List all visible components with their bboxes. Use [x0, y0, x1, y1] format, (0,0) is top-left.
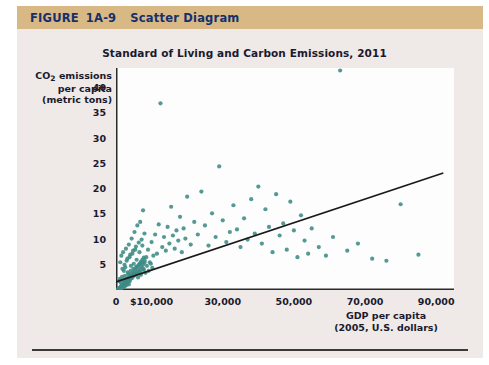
- scatter-point: [164, 249, 168, 253]
- scatter-point: [123, 265, 127, 269]
- scatter-point: [228, 230, 232, 234]
- scatter-point: [399, 202, 403, 206]
- scatter-point: [141, 208, 145, 212]
- scatter-point: [118, 260, 122, 264]
- scatter-point: [235, 227, 239, 231]
- scatter-point: [295, 255, 299, 259]
- scatter-point: [138, 220, 142, 224]
- scatter-point: [189, 242, 193, 246]
- scatter-point: [182, 226, 186, 230]
- scatter-point: [217, 164, 221, 168]
- scatter-point: [210, 211, 214, 215]
- y-axis-title-line1: CO2 emissions: [16, 70, 112, 83]
- scatter-point: [146, 248, 150, 252]
- x-axis-title-line1: GDP per capita: [300, 310, 472, 322]
- scatter-point: [331, 235, 335, 239]
- scatter-point: [183, 236, 187, 240]
- scatter-point: [171, 233, 175, 237]
- scatter-point: [224, 240, 228, 244]
- scatter-point: [142, 231, 146, 235]
- y-axis-tick-label: 20: [80, 183, 106, 194]
- scatter-point: [140, 244, 144, 248]
- scatter-points-group: [116, 68, 420, 290]
- y-axis-tick-label: 25: [80, 158, 106, 169]
- scatter-point: [285, 248, 289, 252]
- scatter-point: [155, 252, 159, 256]
- scatter-point: [130, 252, 134, 256]
- y-axis-tick-label: 35: [80, 107, 106, 118]
- scatter-point: [256, 184, 260, 188]
- scatter-point: [292, 228, 296, 232]
- scatter-point: [135, 258, 139, 262]
- scatter-point: [299, 213, 303, 217]
- scatter-point: [196, 232, 200, 236]
- scatter-point: [221, 218, 225, 222]
- scatter-point: [124, 247, 128, 251]
- x-axis-title-line2: (2005, U.S. dollars): [300, 322, 472, 334]
- scatter-point: [127, 242, 131, 246]
- y-axis-tick-label: 15: [80, 208, 106, 219]
- scatter-point: [310, 226, 314, 230]
- x-axis-tick-label: $10,000: [112, 296, 192, 307]
- scatter-point: [384, 259, 388, 263]
- scatter-point: [160, 245, 164, 249]
- scatter-point: [178, 215, 182, 219]
- scatter-point: [242, 216, 246, 220]
- scatter-point: [263, 207, 267, 211]
- scatter-point: [199, 190, 203, 194]
- scatter-point: [137, 250, 141, 254]
- scatter-point: [356, 241, 360, 245]
- scatter-point: [180, 250, 184, 254]
- scatter-point: [125, 259, 129, 263]
- scatter-point: [135, 223, 139, 227]
- x-axis-tick-label: 30,000: [183, 296, 263, 307]
- scatter-point: [133, 248, 137, 252]
- figure-caption: Scatter Diagram: [130, 11, 239, 25]
- scatter-point: [153, 232, 157, 236]
- scatter-point: [130, 236, 134, 240]
- scatter-point: [185, 195, 189, 199]
- x-axis-tick-label: 90,000: [396, 296, 476, 307]
- scatter-point: [169, 205, 173, 209]
- figure-header-text: FIGURE 1A-9 Scatter Diagram: [30, 11, 240, 25]
- x-axis-tick-label: 70,000: [325, 296, 405, 307]
- scatter-point: [192, 220, 196, 224]
- scatter-point: [121, 250, 125, 254]
- bottom-divider-rule: [32, 349, 468, 351]
- y-axis-title-line3: (metric tons): [16, 94, 112, 106]
- scatter-point: [317, 245, 321, 249]
- scatter-point: [149, 240, 153, 244]
- scatter-point: [214, 235, 218, 239]
- y-axis-tick-label: 5: [80, 259, 106, 270]
- scatter-point: [416, 253, 420, 257]
- scatter-point: [174, 228, 178, 232]
- scatter-point: [270, 250, 274, 254]
- scatter-plot-svg: [116, 68, 454, 290]
- scatter-point: [167, 241, 171, 245]
- scatter-point: [278, 233, 282, 237]
- scatter-point: [127, 255, 131, 259]
- chart-title: Standard of Living and Carbon Emissions,…: [0, 47, 489, 59]
- scatter-point: [345, 249, 349, 253]
- scatter-point: [249, 197, 253, 201]
- scatter-point: [288, 200, 292, 204]
- plot-area: [116, 68, 454, 290]
- figure-number: 1A-9: [86, 11, 116, 25]
- scatter-point: [206, 244, 210, 248]
- scatter-point: [231, 203, 235, 207]
- scatter-point: [203, 223, 207, 227]
- axis-lines: [117, 68, 454, 289]
- scatter-point: [149, 262, 153, 266]
- y-axis-tick-label: 40: [80, 82, 106, 93]
- scatter-point: [274, 192, 278, 196]
- scatter-point: [267, 225, 271, 229]
- scatter-point: [370, 257, 374, 261]
- x-axis-tick-label: 50,000: [254, 296, 334, 307]
- y-axis-title-line1-word: emissions: [59, 70, 112, 81]
- trend-line: [116, 173, 443, 282]
- scatter-point: [260, 241, 264, 245]
- scatter-point: [151, 254, 155, 258]
- scatter-point: [143, 259, 147, 263]
- scatter-point: [176, 238, 180, 242]
- scatter-point: [302, 238, 306, 242]
